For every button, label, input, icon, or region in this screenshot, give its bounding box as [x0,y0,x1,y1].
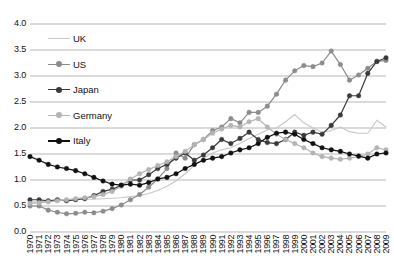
x-axis-tick-label: 1997 [271,235,281,253]
x-axis-tick-label: 2009 [381,235,391,253]
x-axis-tick-label: 2005 [344,235,354,253]
legend-swatch-us-icon [48,60,70,69]
legend-item-japan[interactable]: Japan [48,84,99,95]
legend-label: Japan [73,84,99,95]
y-axis-tick-label: 1.0 [0,174,26,184]
y-axis-tick-label: 2.5 [0,96,26,106]
y-axis-tick-label: 4.0 [0,18,26,28]
legend-label: UK [73,33,86,44]
x-axis-tick-label: 1973 [52,235,62,253]
legend-label: US [73,59,86,70]
legend-label: Italy [73,135,90,146]
legend-item-italy[interactable]: Italy [48,135,90,146]
legend-swatch-japan-icon [48,85,70,94]
x-axis-tick-label: 1974 [62,235,72,253]
x-axis-tick-label: 1989 [198,235,208,253]
legend-item-germany[interactable]: Germany [48,110,112,121]
legend-swatch-germany-icon [48,111,70,120]
legend-item-uk[interactable]: UK [48,33,86,44]
legend-label: Germany [73,110,112,121]
y-axis-tick-label: 2.0 [0,122,26,132]
legend-item-us[interactable]: US [48,59,86,70]
x-axis-tick-label: 1981 [125,235,135,253]
y-axis-tick-label: 1.5 [0,148,26,158]
legend-swatch-italy-icon [48,136,70,145]
legend-swatch-uk-icon [48,34,70,43]
series-us [28,49,389,216]
y-axis-tick-label: 3.5 [0,44,26,54]
y-axis-tick-label: 0.5 [0,200,26,210]
y-axis-tick-label: 0.0 [0,226,26,236]
y-axis-tick-label: 3.0 [0,70,26,80]
line-chart: 0.00.51.01.52.02.53.03.54.01970197119721… [0,0,394,272]
